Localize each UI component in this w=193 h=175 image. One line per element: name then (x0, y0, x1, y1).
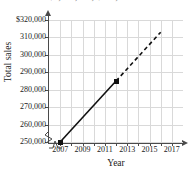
actual-sales-line (60, 81, 116, 142)
data-point-marker (114, 79, 119, 84)
data-series-layer (0, 0, 193, 175)
data-point-marker (58, 140, 63, 145)
projected-sales-line (116, 32, 161, 81)
sales-trend-chart-figure: rate of $1,000,000; $500,000 Total sales… (0, 0, 193, 175)
